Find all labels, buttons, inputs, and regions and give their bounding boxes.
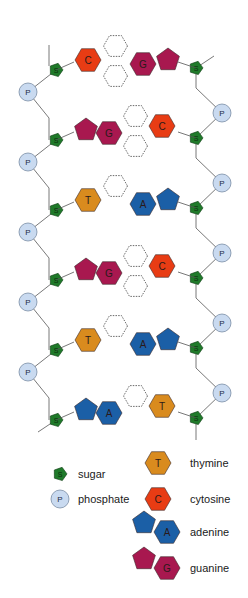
base-pair-3: TA <box>56 176 196 216</box>
sugar-right-4-label: S <box>194 275 199 282</box>
base-A-pentagon <box>157 328 180 350</box>
hydrogen-bond-dashes <box>104 176 128 197</box>
phosphate-right-5-label: P <box>219 389 224 398</box>
hydrogen-bond-dashes <box>124 136 148 157</box>
base-G-pentagon <box>75 258 98 280</box>
legend-sugar-label: sugar <box>78 468 106 480</box>
base-G-pentagon <box>75 118 98 140</box>
sugar-right-5-label: S <box>194 345 199 352</box>
phosphate-left-4-label: P <box>25 298 30 307</box>
legend-adenine-icon-label: A <box>164 527 171 538</box>
phosphate-left-3-label: P <box>25 228 30 237</box>
base-G-label: G <box>105 268 113 279</box>
base-A-pentagon <box>75 398 98 420</box>
base-pair-6: AT <box>56 386 196 425</box>
phosphate-right-3-label: P <box>219 249 224 258</box>
sugar-left-4-label: S <box>54 277 59 284</box>
legend-cytosine-label: cytosine <box>190 493 230 505</box>
hydrogen-bond-dashes <box>104 36 128 57</box>
hydrogen-bond-dashes <box>124 386 148 407</box>
base-G-label: G <box>139 59 147 70</box>
legend-guanine-icon-label: G <box>163 563 171 574</box>
base-G-label: G <box>105 128 113 139</box>
base-pair-2: GC <box>56 106 196 157</box>
sugar-left-3-label: S <box>54 207 59 214</box>
hydrogen-bond-dashes <box>104 66 128 87</box>
base-pair-1: CG <box>56 36 196 87</box>
sugar-left-5-label: S <box>54 347 59 354</box>
backbone-group: PPPPPPPPPPSSSSSSSSSSSS <box>19 45 231 440</box>
phosphate-right-4-label: P <box>219 319 224 328</box>
base-A-label: A <box>140 199 147 210</box>
hydrogen-bond-dashes <box>124 106 148 127</box>
hydrogen-bond-dashes <box>124 246 148 267</box>
base-A-label: A <box>106 408 113 419</box>
legend-guanine-label: guanine <box>190 562 229 574</box>
base-T-label: T <box>159 401 165 412</box>
sugar-left-2-label: S <box>54 137 59 144</box>
hydrogen-bond-dashes <box>124 276 148 297</box>
sugar-left-1-label: S <box>54 67 59 74</box>
base-G-pentagon <box>157 48 180 70</box>
base-A-pentagon <box>157 188 180 210</box>
legend-phosphate-icon-label: P <box>57 495 62 504</box>
sugar-right-1-label: S <box>194 65 199 72</box>
base-pair-4: GC <box>56 246 196 297</box>
sugar-right-2-label: S <box>194 135 199 142</box>
legend-sugar-icon-label: S <box>58 471 63 478</box>
legend-thymine-icon-label: T <box>155 458 161 469</box>
hydrogen-bond-dashes <box>104 316 128 337</box>
base-C-label: C <box>84 55 91 66</box>
base-C-label: C <box>158 121 165 132</box>
legend-cytosine-icon-label: C <box>154 494 161 505</box>
legend-adenine-label: adenine <box>190 526 229 538</box>
sugar-right-3-label: S <box>194 205 199 212</box>
legend: SsugarPphosphateTthymineCcytosineAadenin… <box>51 452 230 580</box>
legend-guanine-pentagon <box>133 547 156 569</box>
dna-diagram: PPPPPPPPPPSSSSSSSSSSSSCGGCTAGCTAATSsugar… <box>0 0 248 598</box>
phosphate-left-1-label: P <box>25 88 30 97</box>
legend-phosphate-label: phosphate <box>78 493 129 505</box>
legend-adenine-pentagon <box>133 511 156 533</box>
phosphate-right-2-label: P <box>219 179 224 188</box>
base-C-label: C <box>158 261 165 272</box>
phosphate-left-5-label: P <box>25 368 30 377</box>
sugar-right-6-label: S <box>194 415 199 422</box>
sugar-left-6-label: S <box>54 417 59 424</box>
base-T-label: T <box>85 195 91 206</box>
phosphate-left-2-label: P <box>25 158 30 167</box>
base-T-label: T <box>85 335 91 346</box>
base-pair-5: TA <box>56 316 196 356</box>
phosphate-right-1-label: P <box>219 109 224 118</box>
legend-thymine-label: thymine <box>190 457 229 469</box>
base-A-label: A <box>140 339 147 350</box>
